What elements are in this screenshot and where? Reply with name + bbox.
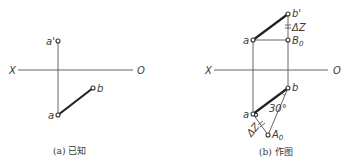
point-a-overlap <box>254 113 257 116</box>
label-a: a <box>243 109 249 120</box>
label-a-prime: a <box>243 35 249 46</box>
point-B0 <box>286 38 290 42</box>
point-b <box>286 86 290 90</box>
label-B0: B0 <box>292 35 304 48</box>
label-b-prime: b' <box>292 8 301 19</box>
point-a-prime <box>56 39 60 43</box>
figure-b: X O b' ΔZ B0 a b a <box>204 8 341 157</box>
label-delta-z-top: ΔZ <box>291 22 307 33</box>
point-b <box>91 86 95 90</box>
point-a <box>56 113 60 117</box>
axis-label-o: O <box>333 65 341 76</box>
caption-b: (b) 作图 <box>259 146 293 157</box>
point-b-prime <box>286 12 290 16</box>
caption-a: (a) 已知 <box>53 145 86 156</box>
label-a: a <box>48 110 54 121</box>
figure-a: X O a' a b (a) 已知 <box>8 36 145 156</box>
label-a-prime: a' <box>46 36 55 47</box>
point-A0 <box>266 133 270 137</box>
projection-diagram: X O a' a b (a) 已知 X O <box>0 0 348 168</box>
segment-ab-horizontal-projection <box>58 88 93 115</box>
point-a-prime <box>251 38 255 42</box>
segment-ab-front-projection <box>253 14 288 40</box>
axis-label-o: O <box>137 65 145 76</box>
label-angle-30: 30° <box>269 103 287 114</box>
axis-label-x: X <box>204 65 213 76</box>
axis-label-x: X <box>8 65 17 76</box>
label-A0: A0 <box>271 129 284 142</box>
label-b: b <box>292 82 298 93</box>
label-b: b <box>97 83 103 94</box>
